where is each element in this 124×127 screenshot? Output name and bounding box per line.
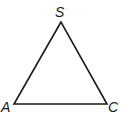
triangle-diagram: S A C [0, 0, 124, 127]
vertex-label-s: S [55, 4, 65, 20]
triangle-sac [14, 22, 107, 104]
vertex-label-a: A [0, 99, 10, 115]
vertex-label-c: C [108, 99, 119, 115]
